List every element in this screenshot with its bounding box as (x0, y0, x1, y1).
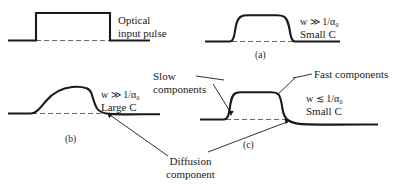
panel-c-caption: (c) (243, 140, 254, 150)
panel-a-capacitance: Small C (300, 28, 336, 41)
panel-a-condition-text: w ≫ 1/α₀ (300, 16, 339, 27)
leader-diffusion-to-b-line (110, 115, 168, 156)
slow-components-label: Slow components (153, 70, 206, 95)
panel-a-capacitance-text: Small C (300, 28, 336, 40)
panel-c-capacitance: Small C (306, 105, 342, 118)
diffusion-component-label-line1: Diffusion (169, 155, 211, 167)
panel-b-capacitance-text: Large C (101, 101, 137, 113)
slow-components-label-line1: Slow (153, 70, 176, 82)
panel-c-trace (200, 92, 378, 124)
fast-components-label: Fast components (314, 68, 388, 81)
slow-components-label-line2: components (153, 83, 206, 95)
panel-b-condition-text: w ≫ 1/α₀ (101, 89, 140, 100)
panel-a-caption: (a) (255, 50, 266, 60)
diffusion-component-label: Diffusion component (166, 155, 215, 180)
leader-slow-components-arrow-line (213, 84, 231, 113)
panel-b-caption-text: (b) (65, 134, 76, 144)
panel-a-caption-text: (a) (255, 50, 266, 60)
panel-c-caption-text: (c) (243, 140, 254, 150)
panel-a-condition: w ≫ 1/α₀ (300, 16, 339, 28)
panel-c-condition-text: w ≲ 1/α₀ (306, 93, 343, 104)
panel-b-caption: (b) (65, 134, 76, 144)
optical-input-pulse-label-line2: input pulse (118, 27, 167, 39)
fast-components-label-text: Fast components (314, 68, 388, 80)
panel-c-capacitance-text: Small C (306, 105, 342, 117)
photodetector-response-figure: Optical input pulse w ≫ 1/α₀ Small C (a)… (0, 0, 395, 184)
leader-fast-components-line (277, 77, 296, 95)
optical-input-pulse-label-line1: Optical (118, 14, 150, 26)
diffusion-component-label-line2: component (166, 168, 215, 180)
panel-b-capacitance: Large C (101, 101, 137, 114)
panel-b-condition: w ≫ 1/α₀ (101, 89, 140, 101)
panel-c-condition: w ≲ 1/α₀ (306, 93, 343, 105)
optical-input-pulse-label: Optical input pulse (118, 14, 167, 39)
